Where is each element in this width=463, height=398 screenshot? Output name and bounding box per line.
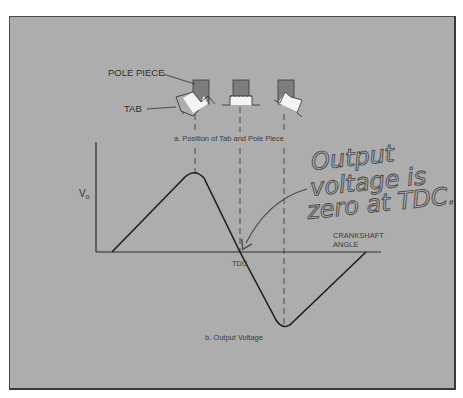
annotation-arrow-icon bbox=[246, 189, 307, 243]
pole-piece-sensor-right bbox=[274, 80, 302, 117]
pole-piece-sensor-left bbox=[176, 80, 215, 116]
caption-part-a: a. Position of Tab and Pole Piece bbox=[174, 134, 284, 143]
pole-piece-leader bbox=[163, 74, 195, 84]
tab-label: TAB bbox=[124, 103, 142, 114]
handwritten-annotation: Output voltage is zero at TDC. bbox=[305, 139, 457, 225]
diagram-canvas: POLE PIECE TAB a. Position of Tab and Po… bbox=[0, 0, 463, 398]
pole-piece-label: POLE PIECE bbox=[108, 67, 165, 78]
y-axis-label: Vo bbox=[79, 188, 90, 200]
pole-piece-sensor-center bbox=[222, 80, 260, 105]
tab-leader bbox=[147, 107, 176, 109]
x-axis-label-line2: ANGLE bbox=[333, 240, 358, 249]
x-axis-label-line1: CRANKSHAFT bbox=[333, 231, 384, 240]
caption-part-b: b. Output Voltage bbox=[205, 333, 263, 342]
tdc-label: TDC bbox=[232, 259, 248, 268]
